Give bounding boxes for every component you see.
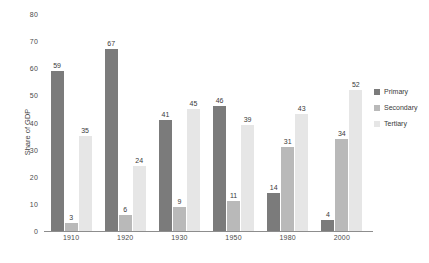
- plot-area: 80706050403020100 5933567624419454611391…: [44, 14, 369, 231]
- bar-value-label: 43: [298, 105, 306, 112]
- bar-slot: 6: [119, 14, 132, 231]
- bar[interactable]: [267, 193, 280, 231]
- bar-value-label: 59: [53, 62, 61, 69]
- bar[interactable]: [295, 114, 308, 231]
- bar[interactable]: [321, 220, 334, 231]
- bar-value-label: 9: [177, 198, 181, 205]
- bar-group: 67624: [102, 14, 148, 231]
- legend-item[interactable]: Secondary: [374, 104, 417, 111]
- bar-slot: 41: [159, 14, 172, 231]
- bar-slot: 11: [227, 14, 240, 231]
- bar-group: 59335: [48, 14, 94, 231]
- bar-value-label: 41: [161, 111, 169, 118]
- legend-item-label: Secondary: [384, 104, 417, 111]
- bar-value-label: 46: [216, 97, 224, 104]
- bar[interactable]: [335, 139, 348, 231]
- legend-item[interactable]: Tertiary: [374, 120, 417, 127]
- bar[interactable]: [133, 166, 146, 231]
- bar-value-label: 4: [326, 211, 330, 218]
- chart-legend: PrimarySecondaryTertiary: [374, 88, 417, 136]
- bar-slot: 3: [65, 14, 78, 231]
- x-axis-line: [44, 231, 373, 232]
- bar-value-label: 39: [244, 116, 252, 123]
- bar[interactable]: [119, 215, 132, 231]
- y-tick-label: 10: [30, 200, 38, 207]
- bar-slot: 35: [79, 14, 92, 231]
- bar[interactable]: [105, 49, 118, 231]
- bar-value-label: 14: [270, 184, 278, 191]
- bar-slot: 43: [295, 14, 308, 231]
- legend-item-label: Tertiary: [384, 120, 407, 127]
- y-tick-label: 30: [30, 146, 38, 153]
- bar-value-label: 35: [81, 127, 89, 134]
- bar-value-label: 45: [189, 100, 197, 107]
- y-tick-label: 0: [34, 228, 38, 235]
- bar-value-label: 52: [352, 81, 360, 88]
- bar[interactable]: [241, 125, 254, 231]
- bar-group: 41945: [156, 14, 202, 231]
- x-tick-label: 1930: [149, 234, 209, 241]
- bar[interactable]: [159, 120, 172, 231]
- bar-slot: 46: [213, 14, 226, 231]
- legend-swatch-icon: [374, 105, 380, 111]
- bar-slot: 31: [281, 14, 294, 231]
- bar[interactable]: [51, 71, 64, 231]
- bar[interactable]: [79, 136, 92, 231]
- x-tick-label: 1910: [41, 234, 101, 241]
- bar[interactable]: [187, 109, 200, 231]
- legend-swatch-icon: [374, 89, 380, 95]
- bar-value-label: 67: [107, 40, 115, 47]
- x-tick-label: 1920: [95, 234, 155, 241]
- y-tick-label: 80: [30, 11, 38, 18]
- bar-value-label: 31: [284, 138, 292, 145]
- x-tick-label: 2000: [312, 234, 372, 241]
- bar-groups: 59335676244194546113914314343452: [44, 14, 369, 231]
- bar[interactable]: [349, 90, 362, 231]
- bar-value-label: 11: [230, 192, 237, 199]
- legend-item[interactable]: Primary: [374, 88, 417, 95]
- bar-slot: 39: [241, 14, 254, 231]
- y-tick-label: 20: [30, 173, 38, 180]
- legend-item-label: Primary: [384, 88, 408, 95]
- y-tick-label: 70: [30, 38, 38, 45]
- bar-slot: 59: [51, 14, 64, 231]
- bar-value-label: 6: [123, 206, 127, 213]
- x-tick-label: 1980: [258, 234, 318, 241]
- bar-value-label: 24: [135, 157, 143, 164]
- bar-slot: 4: [321, 14, 334, 231]
- bar[interactable]: [227, 201, 240, 231]
- x-tick-label: 1950: [204, 234, 264, 241]
- bar-slot: 24: [133, 14, 146, 231]
- bar[interactable]: [281, 147, 294, 231]
- bar-group: 43452: [319, 14, 365, 231]
- y-tick-label: 40: [30, 119, 38, 126]
- bar-slot: 34: [335, 14, 348, 231]
- legend-swatch-icon: [374, 121, 380, 127]
- bar-slot: 45: [187, 14, 200, 231]
- bar-value-label: 3: [69, 214, 73, 221]
- bar[interactable]: [173, 207, 186, 231]
- y-tick-label: 50: [30, 92, 38, 99]
- y-tick-label: 60: [30, 65, 38, 72]
- bar-group: 143143: [265, 14, 311, 231]
- bar-chart: Share of GDP 80706050403020100 593356762…: [0, 0, 429, 263]
- bar-slot: 67: [105, 14, 118, 231]
- bar-group: 461139: [211, 14, 257, 231]
- bar-slot: 9: [173, 14, 186, 231]
- bar[interactable]: [65, 223, 78, 231]
- bar-value-label: 34: [338, 130, 346, 137]
- bar[interactable]: [213, 106, 226, 231]
- bar-slot: 14: [267, 14, 280, 231]
- bar-slot: 52: [349, 14, 362, 231]
